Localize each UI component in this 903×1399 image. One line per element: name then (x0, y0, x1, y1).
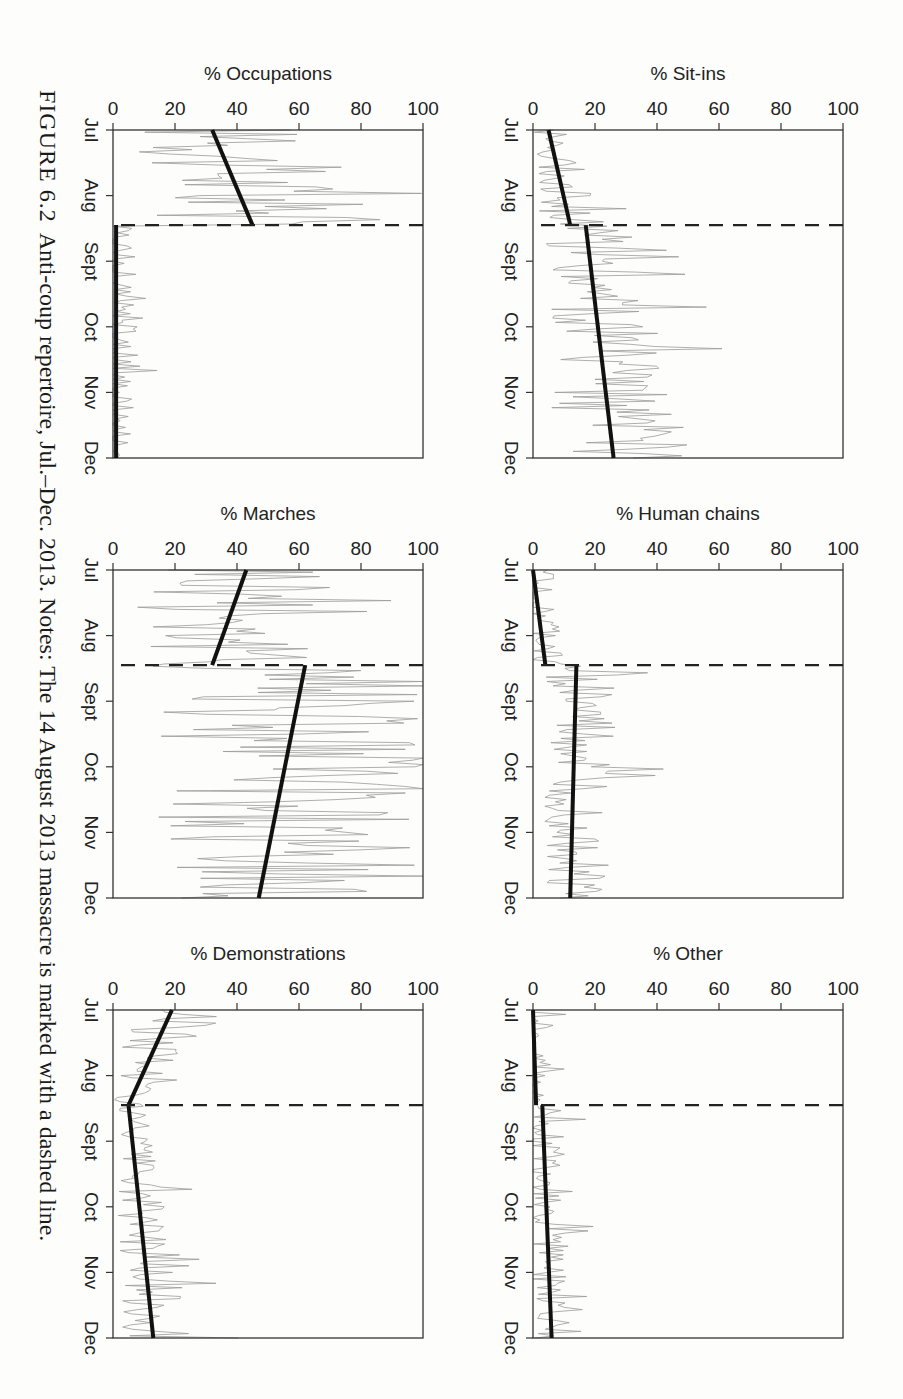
y-tick-label: 100 (827, 98, 859, 119)
figure-caption-text: Anti-coup repertoire, Jul.–Dec. 2013. No… (35, 233, 61, 1242)
y-tick-label: 80 (770, 98, 791, 119)
y-tick-label: 40 (646, 978, 667, 999)
y-tick-label: 100 (407, 978, 439, 999)
y-axis-title: % Other (653, 943, 723, 964)
y-tick-label: 20 (164, 538, 185, 559)
trend-line (212, 130, 252, 225)
y-tick-label: 20 (584, 538, 605, 559)
figure-label: FIGURE 6.2 (35, 90, 61, 223)
x-tick-label: Nov (501, 376, 522, 410)
y-tick-label: 80 (350, 98, 371, 119)
y-tick-label: 40 (646, 98, 667, 119)
y-tick-label: 80 (350, 538, 371, 559)
plot-frame (113, 130, 423, 458)
x-tick-label: Dec (81, 1321, 102, 1355)
y-tick-label: 0 (108, 978, 119, 999)
y-tick-label: 0 (108, 538, 119, 559)
x-tick-label: Sept (501, 682, 522, 722)
y-tick-label: 80 (350, 978, 371, 999)
x-tick-label: Oct (501, 312, 522, 342)
x-tick-label: Nov (81, 1256, 102, 1290)
y-tick-label: 40 (226, 98, 247, 119)
x-tick-label: Jul (81, 558, 102, 582)
chart-panel-human-chains: JulAugSeptOctNovDec020406080100% Human c… (453, 510, 853, 918)
y-tick-label: 60 (708, 978, 729, 999)
trend-line (542, 1105, 551, 1338)
x-tick-label: Aug (81, 1059, 102, 1093)
y-tick-label: 0 (528, 538, 539, 559)
daily-series-line (138, 570, 423, 898)
x-tick-label: Jul (501, 558, 522, 582)
x-tick-label: Aug (501, 1059, 522, 1093)
x-tick-label: Sept (501, 242, 522, 282)
x-tick-label: Jul (501, 998, 522, 1022)
chart-svg: JulAugSeptOctNovDec020406080100% Demonst… (33, 950, 433, 1358)
y-axis-title: % Marches (220, 503, 315, 524)
y-tick-label: 20 (584, 98, 605, 119)
x-tick-label: Nov (501, 1256, 522, 1290)
y-tick-label: 40 (226, 538, 247, 559)
x-tick-label: Jul (81, 118, 102, 142)
x-tick-label: Sept (81, 1122, 102, 1162)
x-tick-label: Aug (501, 619, 522, 653)
y-axis-title: % Human chains (616, 503, 760, 524)
chart-svg: JulAugSeptOctNovDec020406080100% Marches (33, 510, 433, 918)
x-tick-label: Oct (501, 752, 522, 782)
chart-svg: JulAugSeptOctNovDec020406080100% Human c… (453, 510, 853, 918)
daily-series-line (534, 130, 722, 458)
x-tick-label: Aug (81, 179, 102, 213)
y-axis-title: % Sit-ins (651, 63, 726, 84)
chart-panel-marches: JulAugSeptOctNovDec020406080100% Marches (33, 510, 433, 918)
y-tick-label: 20 (584, 978, 605, 999)
y-axis-title: % Occupations (204, 63, 332, 84)
x-tick-label: Jul (501, 118, 522, 142)
x-tick-label: Aug (81, 619, 102, 653)
figure-caption: FIGURE 6.2Anti-coup repertoire, Jul.–Dec… (34, 90, 61, 1330)
chart-panel-demonstrations: JulAugSeptOctNovDec020406080100% Demonst… (33, 950, 433, 1358)
y-axis-title: % Demonstrations (190, 943, 345, 964)
y-tick-label: 100 (827, 538, 859, 559)
x-tick-label: Sept (501, 1122, 522, 1162)
y-tick-label: 0 (108, 98, 119, 119)
y-tick-label: 80 (770, 978, 791, 999)
figure-page: JulAugSeptOctNovDec020406080100% Occupat… (0, 0, 903, 1399)
x-tick-label: Sept (81, 242, 102, 282)
x-tick-label: Oct (501, 1192, 522, 1222)
y-tick-label: 0 (528, 978, 539, 999)
daily-series-line (115, 1010, 239, 1338)
y-tick-label: 60 (708, 538, 729, 559)
x-tick-label: Dec (81, 441, 102, 475)
chart-svg: JulAugSeptOctNovDec020406080100% Sit-ins (453, 70, 853, 478)
x-tick-label: Nov (81, 816, 102, 850)
trend-line (212, 570, 246, 665)
x-tick-label: Nov (501, 816, 522, 850)
x-tick-label: Jul (81, 998, 102, 1022)
chart-panel-occupations: JulAugSeptOctNovDec020406080100% Occupat… (33, 70, 433, 478)
y-tick-label: 20 (164, 978, 185, 999)
chart-svg: JulAugSeptOctNovDec020406080100% Other (453, 950, 853, 1358)
y-tick-label: 100 (407, 98, 439, 119)
x-tick-label: Nov (81, 376, 102, 410)
y-tick-label: 60 (288, 538, 309, 559)
y-tick-label: 80 (770, 538, 791, 559)
chart-panel-other: JulAugSeptOctNovDec020406080100% Other (453, 950, 853, 1358)
y-tick-label: 100 (827, 978, 859, 999)
y-tick-label: 100 (407, 538, 439, 559)
trend-line (570, 665, 576, 898)
x-tick-label: Aug (501, 179, 522, 213)
y-tick-label: 40 (226, 978, 247, 999)
daily-series-line (533, 1010, 593, 1338)
x-tick-label: Oct (81, 752, 102, 782)
x-tick-label: Dec (81, 881, 102, 915)
x-tick-label: Dec (501, 881, 522, 915)
plot-frame (533, 130, 843, 458)
x-tick-label: Oct (81, 312, 102, 342)
y-tick-label: 60 (288, 98, 309, 119)
daily-series-line (113, 130, 422, 458)
x-tick-label: Dec (501, 441, 522, 475)
x-tick-label: Dec (501, 1321, 522, 1355)
trend-line (129, 1010, 172, 1105)
daily-series-line (533, 570, 663, 898)
chart-panel-sit-ins: JulAugSeptOctNovDec020406080100% Sit-ins (453, 70, 853, 478)
chart-svg: JulAugSeptOctNovDec020406080100% Occupat… (33, 70, 433, 478)
